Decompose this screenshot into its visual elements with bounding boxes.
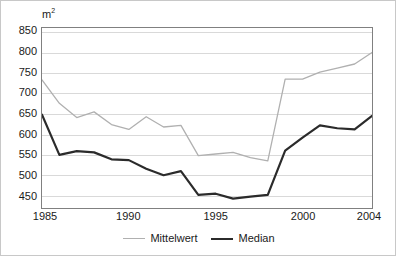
unit-exponent: 2 — [51, 7, 55, 14]
y-tick-label: 750 — [3, 67, 37, 78]
y-tick-label: 550 — [3, 149, 37, 160]
legend-line-swatch-icon — [123, 238, 145, 239]
legend-entry-mittelwert[interactable]: Mittelwert — [123, 233, 197, 244]
series-line-mittelwert — [42, 53, 372, 161]
y-axis-unit-label: m2 — [42, 9, 55, 20]
y-tick-label: 850 — [3, 25, 37, 36]
data-series-layer — [42, 28, 372, 208]
x-axis-tick-labels: 19851990199520002004 — [41, 211, 373, 227]
x-tick-label: 2000 — [291, 211, 315, 222]
y-tick-label: 500 — [3, 170, 37, 181]
x-tick-label: 1990 — [116, 211, 140, 222]
series-line-median — [42, 115, 372, 199]
y-tick-label: 800 — [3, 46, 37, 57]
legend-label: Mittelwert — [150, 233, 197, 244]
unit-base: m — [42, 8, 51, 20]
plot-area — [41, 27, 373, 209]
line-chart: m2 850800750700650600550500450 198519901… — [0, 0, 396, 256]
x-tick-label: 1985 — [33, 211, 57, 222]
y-tick-label: 450 — [3, 191, 37, 202]
legend-label: Median — [238, 233, 274, 244]
y-tick-label: 650 — [3, 108, 37, 119]
x-tick-label: 2004 — [357, 211, 381, 222]
y-tick-label: 600 — [3, 129, 37, 140]
chart-legend: MittelwertMedian — [1, 233, 396, 244]
x-tick-label: 1995 — [203, 211, 227, 222]
y-tick-label: 700 — [3, 87, 37, 98]
legend-entry-median[interactable]: Median — [211, 233, 274, 244]
legend-line-swatch-icon — [211, 238, 233, 240]
y-axis-tick-labels: 850800750700650600550500450 — [1, 27, 37, 209]
